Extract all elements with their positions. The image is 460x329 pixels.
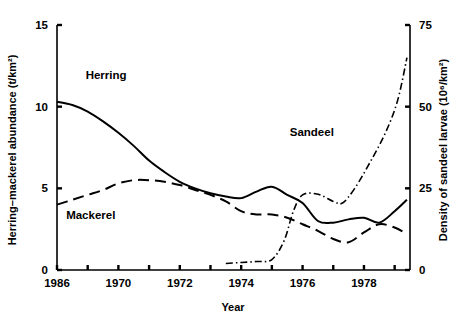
series-line-herring [57,102,407,223]
y-right-tick-label: 0 [419,264,425,276]
y-left-tick-label: 5 [42,182,49,194]
y-right-tick-label: 50 [419,101,432,113]
x-tick-label: 1986 [44,277,70,289]
x-tick-label: 1978 [351,277,377,289]
y-left-tick-label: 15 [35,19,48,31]
x-tick-label: 1970 [106,277,132,289]
x-tick-label: 1974 [228,277,254,289]
series-line-sandeel [226,58,407,264]
line-chart: 198619701972197419761978 051015 0255075 … [0,0,460,329]
y-right-tick-label: 75 [419,19,432,31]
y-axis-left-tick-labels: 051015 [35,19,48,276]
axes-group [57,25,410,270]
y-axis-left-title: Herring–mackerel abundance (t/km²) [6,54,18,245]
data-series-group [57,58,407,264]
y-left-tick-label: 10 [35,101,48,113]
chart-figure: 198619701972197419761978 051015 0255075 … [0,0,460,329]
x-tick-label: 1972 [167,277,193,289]
x-axis-tick-labels: 198619701972197419761978 [44,277,377,289]
series-label-sandeel: Sandeel [290,126,334,138]
y-right-tick-label: 25 [419,182,432,194]
x-axis-title: Year [221,301,245,313]
x-tick-label: 1976 [290,277,316,289]
y-axis-right-tick-labels: 0255075 [419,19,432,276]
series-label-herring: Herring [86,69,127,81]
series-label-mackerel: Mackerel [66,209,115,221]
y-left-tick-label: 0 [42,264,48,276]
y-axis-right-title: Density of sandeel larvae (10⁶/km²) [437,58,449,241]
